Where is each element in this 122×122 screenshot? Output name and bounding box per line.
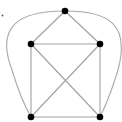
vertex-top bbox=[62, 8, 69, 15]
vertex-bottom-right bbox=[97, 114, 104, 121]
vertex-mid-right bbox=[97, 41, 104, 48]
curved-edges bbox=[7, 11, 122, 117]
stray-dot bbox=[2, 15, 4, 17]
straight-edges bbox=[31, 11, 100, 117]
edge-top-mid-right bbox=[65, 11, 100, 44]
vertex-mid-left bbox=[28, 41, 35, 48]
edge-top-mid-left bbox=[31, 11, 65, 44]
vertices bbox=[28, 8, 104, 121]
graph-diagram bbox=[0, 0, 122, 122]
vertex-bottom-left bbox=[28, 114, 35, 121]
curved-edge-top-bottom-left bbox=[7, 11, 65, 117]
curved-edge-top-bottom-right bbox=[65, 11, 121, 117]
